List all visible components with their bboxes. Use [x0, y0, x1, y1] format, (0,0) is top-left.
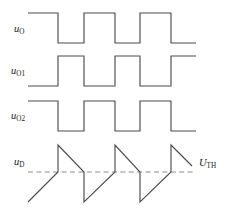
waveform-trace-uo1 — [28, 56, 196, 86]
threshold-label-uth-base: U — [199, 157, 207, 168]
waveform-label-uo1: uO1 — [11, 66, 25, 77]
threshold-label-uth: UTH — [199, 158, 216, 169]
waveform-trace-ud — [28, 145, 192, 202]
waveform-diagram: uO uO1 uO2 uD UTH — [0, 0, 230, 211]
waveform-label-uo: uO — [14, 24, 25, 35]
waveform-trace-uo2 — [28, 101, 196, 131]
waveform-label-uo2: uO2 — [11, 111, 25, 122]
threshold-label-uth-subscript: TH — [207, 162, 217, 170]
waveform-trace-uo — [28, 13, 196, 43]
waveform-label-uo1-subscript: O1 — [16, 70, 25, 78]
waveform-label-uo-subscript: O — [19, 28, 24, 36]
waveform-label-ud: uD — [14, 157, 25, 168]
waveform-label-ud-subscript: D — [19, 161, 24, 169]
waveform-canvas — [0, 0, 230, 211]
waveform-label-uo2-subscript: O2 — [16, 115, 25, 123]
